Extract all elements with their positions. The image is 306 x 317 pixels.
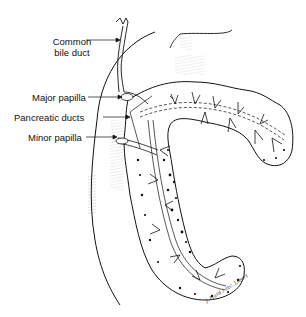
label-common-bile-duct-line2: bile duct — [44, 47, 100, 58]
minor-papilla — [116, 138, 128, 144]
pancreas-diagram: Common bile duct Major papilla Pancreati… — [0, 0, 306, 317]
label-minor-papilla: Minor papilla — [28, 132, 82, 143]
major-papilla — [121, 94, 133, 101]
label-pancreatic-ducts: Pancreatic ducts — [14, 112, 84, 123]
label-common-bile-duct: Common bile duct — [44, 36, 100, 58]
pancreas — [118, 82, 293, 300]
label-major-papilla: Major papilla — [32, 92, 86, 103]
common-bile-duct — [116, 18, 128, 92]
label-common-bile-duct-line1: Common — [44, 36, 100, 47]
